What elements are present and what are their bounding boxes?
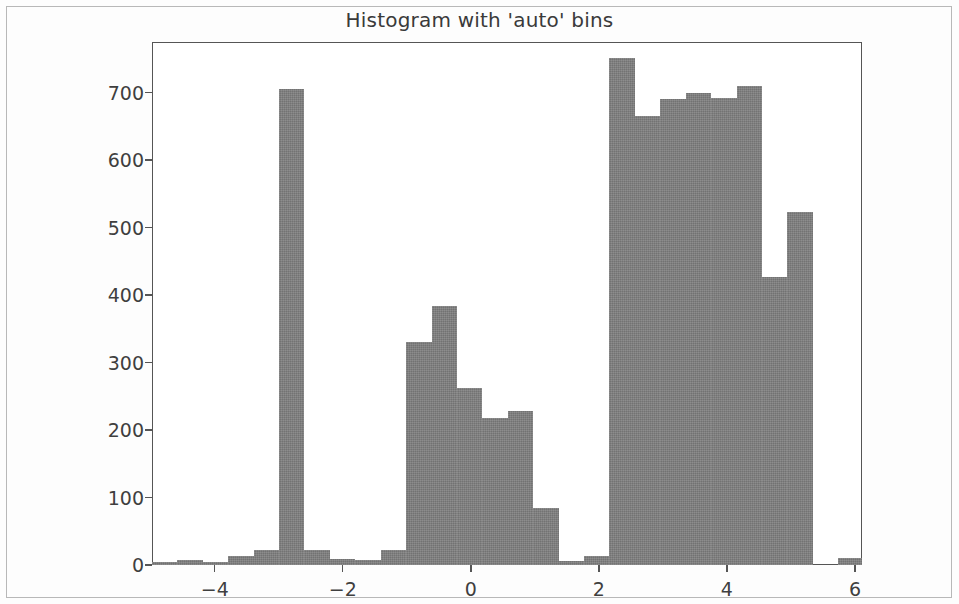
histogram-bars — [152, 42, 862, 565]
histogram-bar — [432, 306, 457, 565]
y-axis-tick-labels: 0100200300400500600700 — [70, 0, 144, 604]
histogram-bar — [584, 556, 609, 565]
histogram-bar — [686, 93, 711, 565]
y-axis-tick-mark — [145, 92, 152, 93]
figure-canvas: Histogram with 'auto' bins 0100200300400… — [0, 0, 959, 604]
y-axis-tick-mark — [145, 362, 152, 363]
x-axis-tick-label: −4 — [201, 578, 229, 600]
histogram-bar — [406, 342, 431, 565]
histogram-bar — [635, 116, 660, 565]
x-axis-tick-label: 2 — [593, 578, 605, 600]
histogram-bar — [279, 89, 304, 565]
histogram-bar — [660, 99, 685, 565]
histogram-bar — [457, 388, 482, 565]
x-axis-tick-mark — [598, 565, 599, 572]
histogram-bar — [152, 562, 177, 565]
y-axis-tick-label: 600 — [108, 149, 144, 171]
histogram-bar — [737, 86, 762, 565]
histogram-bar — [787, 212, 812, 565]
y-axis-tick-mark — [145, 159, 152, 160]
x-axis-tick-mark — [214, 565, 215, 572]
histogram-bar — [203, 562, 228, 565]
y-axis-tick-label: 100 — [108, 487, 144, 509]
histogram-bar — [177, 560, 202, 565]
x-axis-tick-label: 4 — [721, 578, 733, 600]
x-axis-tick-mark — [342, 565, 343, 572]
x-axis-tick-mark — [470, 565, 471, 572]
histogram-bar — [838, 558, 862, 565]
y-axis-tick-label: 700 — [108, 82, 144, 104]
y-axis-tick-mark — [145, 429, 152, 430]
x-axis-tick-label: 6 — [849, 578, 861, 600]
histogram-bar — [355, 560, 380, 565]
histogram-bar — [533, 508, 558, 565]
y-axis-tick-label: 500 — [108, 217, 144, 239]
y-axis-tick-label: 0 — [132, 554, 144, 576]
x-axis-tick-mark — [726, 565, 727, 572]
histogram-bar — [762, 277, 787, 565]
x-axis-tick-label: 0 — [465, 578, 477, 600]
y-axis-tick-mark — [145, 227, 152, 228]
y-axis-tick-label: 400 — [108, 284, 144, 306]
y-axis-tick-mark — [145, 294, 152, 295]
histogram-bar — [254, 550, 279, 565]
x-axis-tick-label: −2 — [329, 578, 357, 600]
x-axis-tick-mark — [854, 565, 855, 572]
y-axis-tick-mark — [145, 497, 152, 498]
y-axis-tick-label: 200 — [108, 419, 144, 441]
histogram-bar — [304, 550, 329, 565]
histogram-bar — [482, 418, 507, 565]
histogram-bar — [711, 98, 736, 565]
histogram-bar — [381, 550, 406, 565]
y-axis-tick-label: 300 — [108, 352, 144, 374]
histogram-bar — [508, 411, 533, 565]
histogram-bar — [559, 561, 584, 565]
histogram-bar — [609, 58, 634, 565]
histogram-bar — [228, 556, 253, 565]
y-axis-tick-mark — [145, 564, 152, 565]
